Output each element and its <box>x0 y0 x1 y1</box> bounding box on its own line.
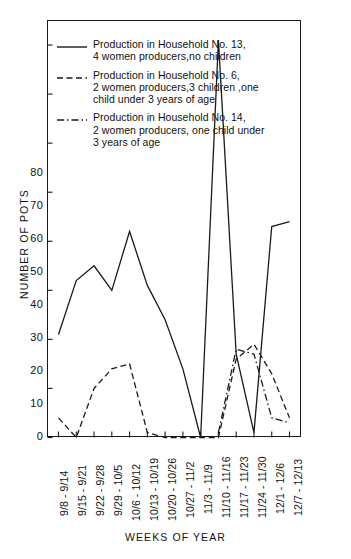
chart-figure: 80 70 60 50 40 30 20 10 0 NUMBER OF POTS… <box>0 0 351 559</box>
y-tick-label-0: 0 <box>17 430 43 442</box>
y-tick-label-10: 10 <box>17 397 43 409</box>
legend-entry-household-13: Production in Household No. 13, 4 women … <box>57 38 297 63</box>
legend-key-dashdot-icon <box>57 116 87 124</box>
x-tick-label-3: 9/22 - 9/28 <box>94 465 106 516</box>
x-tick-label-4: 9/29 - 10/5 <box>112 465 124 516</box>
legend-line-1: Production in Household No. 6, <box>93 69 297 81</box>
x-tick-label-12: 11/24 - 11/30 <box>256 456 268 518</box>
legend-line-1: Production in Household No. 14, <box>93 111 297 123</box>
y-tick-label-20: 20 <box>17 364 43 376</box>
x-tick-label-5: 10/6 - 10/12 <box>130 464 142 521</box>
x-tick-label-7: 10/20 - 10/26 <box>166 458 178 521</box>
x-tick-label-2: 9/15 - 9/21 <box>76 465 88 516</box>
x-tick-label-10: 11/10 - 11/16 <box>220 456 232 518</box>
chart-legend: Production in Household No. 13, 4 women … <box>57 38 297 154</box>
x-axis-title: WEEKS OF YEAR <box>0 531 351 543</box>
x-tick-label-13: 12/1 - 12/6 <box>274 463 286 514</box>
legend-entry-household-6: Production in Household No. 6, 2 women p… <box>57 69 297 106</box>
x-tick-label-6: 10/13 - 10/19 <box>148 458 160 521</box>
legend-line-2: 2 women producers,3 children ,one <box>93 81 297 93</box>
x-tick-label-1: 9/8 - 9/14 <box>58 471 70 516</box>
legend-line-1: Production in Household No. 13, <box>93 38 297 50</box>
x-tick-label-9: 11/3 - 11/9 <box>202 464 214 514</box>
y-tick-label-80: 80 <box>17 166 43 178</box>
legend-line-3: 3 years of age <box>93 136 297 148</box>
y-tick-label-30: 30 <box>17 331 43 343</box>
legend-entry-household-14: Production in Household No. 14, 2 women … <box>57 111 297 148</box>
legend-line-2: 4 women producers,no children <box>93 50 297 62</box>
legend-key-solid-icon <box>57 43 87 51</box>
legend-key-dashed-icon <box>57 74 87 82</box>
legend-line-3: child under 3 years of age <box>93 93 297 105</box>
y-axis-title: NUMBER OF POTS <box>18 184 30 304</box>
x-tick-label-11: 11/17 - 11/23 <box>238 456 250 518</box>
x-tick-label-14: 12/7 - 12/13 <box>292 459 304 516</box>
x-tick-label-8: 10/27 - 11/2 <box>184 462 196 518</box>
legend-line-2: 2 women producers, one child under <box>93 124 297 136</box>
